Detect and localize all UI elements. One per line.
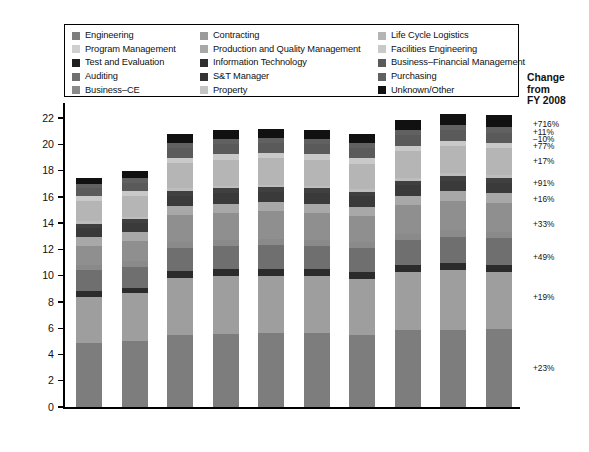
legend-swatch-icon — [378, 73, 386, 81]
bar-segment — [122, 241, 148, 261]
y-tick-label: 20 — [28, 139, 54, 150]
bar-2017[interactable] — [486, 115, 512, 407]
legend-item-label: Information Technology — [213, 58, 307, 67]
x-axis-line — [63, 407, 520, 409]
legend-item-label: Purchasing — [391, 72, 437, 81]
bar-segment — [167, 248, 193, 271]
bar-segment — [167, 271, 193, 278]
legend-item-label: Program Management — [85, 45, 176, 54]
bar-segment — [440, 146, 466, 174]
bar-segment — [349, 335, 375, 407]
bar-segment — [122, 183, 148, 192]
change-annotation: +91% — [533, 179, 585, 187]
bar-segment — [213, 204, 239, 213]
legend-swatch-icon — [378, 45, 386, 53]
bar-segment — [440, 237, 466, 263]
bar-segment — [304, 160, 330, 186]
legend-item: Unknown/Other — [378, 83, 525, 97]
bar-segment — [122, 293, 148, 340]
bar-segment — [395, 185, 421, 196]
bar-segment — [395, 265, 421, 272]
bar-segment — [349, 164, 375, 190]
bar-segment — [395, 240, 421, 265]
legend-item: Property — [200, 83, 378, 97]
change-annotation: +77% — [533, 142, 585, 150]
bar-segment — [76, 297, 102, 344]
y-tick — [58, 406, 64, 407]
legend-swatch-icon — [200, 32, 208, 40]
bar-segment — [167, 335, 193, 407]
legend-item: Engineering — [72, 29, 200, 43]
bar-segment — [486, 203, 512, 232]
y-tick-label: 0 — [28, 402, 54, 413]
bar-segment — [395, 272, 421, 330]
bar-segment — [167, 134, 193, 143]
legend-item-label: Business–Financial Management — [391, 58, 525, 67]
bar-2015[interactable] — [395, 120, 421, 407]
bar-2011[interactable] — [213, 130, 239, 407]
bar-segment — [486, 238, 512, 265]
change-column-header: ChangefromFY 2008 — [527, 72, 587, 107]
bar-segment — [258, 158, 284, 184]
y-tick — [58, 117, 64, 118]
bar-2008[interactable] — [76, 178, 102, 407]
bar-2016[interactable] — [440, 114, 466, 407]
bar-2010[interactable] — [167, 134, 193, 407]
legend-item-label: Unknown/Other — [391, 86, 454, 95]
y-tick-label: 8 — [28, 297, 54, 308]
bar-segment — [213, 276, 239, 334]
legend-swatch-icon — [200, 86, 208, 94]
bar-segment — [440, 114, 466, 125]
y-tick — [58, 144, 64, 145]
y-tick-label: 6 — [28, 323, 54, 334]
bar-segment — [349, 207, 375, 216]
change-annotation: +33% — [533, 220, 585, 228]
bar-segment — [440, 201, 466, 231]
y-tick — [58, 380, 64, 381]
bar-segment — [304, 193, 330, 204]
bar-segment — [304, 130, 330, 139]
bar-segment — [486, 329, 512, 407]
y-tick — [58, 328, 64, 329]
bar-segment — [122, 267, 148, 288]
bar-segment — [258, 269, 284, 276]
y-tick-label: 14 — [28, 218, 54, 229]
bar-segment — [167, 278, 193, 335]
bar-segment — [213, 193, 239, 204]
bar-2013[interactable] — [304, 130, 330, 407]
legend-item: Life Cycle Logistics — [378, 29, 525, 43]
y-tick-label: 22 — [28, 113, 54, 124]
bar-segment — [258, 211, 284, 239]
plot-area: 0246810121416182022 20082009201020112012… — [64, 105, 519, 407]
legend-item: Contracting — [200, 29, 378, 43]
bar-segment — [167, 215, 193, 242]
y-tick — [58, 275, 64, 276]
y-tick — [58, 301, 64, 302]
bar-segment — [258, 202, 284, 211]
bar-2014[interactable] — [349, 134, 375, 407]
bar-segment — [486, 148, 512, 175]
legend-item-label: S&T Manager — [213, 72, 269, 81]
bar-segment — [349, 196, 375, 207]
bar-segment — [349, 272, 375, 279]
legend-item: Business–CE — [72, 83, 200, 97]
bar-segment — [440, 130, 466, 141]
bar-segment — [486, 133, 512, 144]
bar-segment — [213, 213, 239, 241]
bar-segment — [440, 330, 466, 407]
bar-segment — [349, 148, 375, 158]
bar-segment — [122, 223, 148, 232]
bar-2012[interactable] — [258, 129, 284, 407]
change-annotation: +19% — [533, 293, 585, 301]
bar-segment — [167, 206, 193, 215]
legend-swatch-icon — [378, 32, 386, 40]
legend-item-label: Business–CE — [85, 86, 140, 95]
legend-grid: EngineeringContractingLife Cycle Logisti… — [65, 25, 518, 100]
legend-swatch-icon — [72, 73, 80, 81]
bar-segment — [349, 248, 375, 272]
bar-2009[interactable] — [122, 171, 148, 407]
legend-item-label: Facilities Engineering — [391, 45, 477, 54]
bar-segment — [213, 334, 239, 407]
bar-segment — [76, 188, 102, 196]
bar-segment — [486, 183, 512, 194]
